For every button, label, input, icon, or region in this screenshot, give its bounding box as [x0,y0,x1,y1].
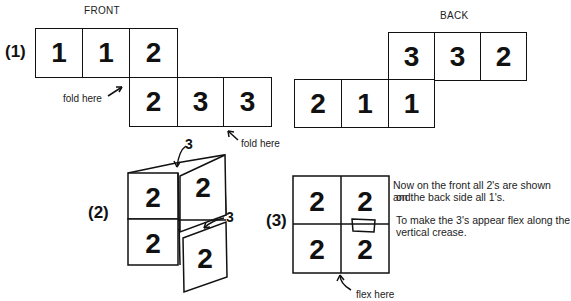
step-2-cell: 2 [195,172,211,203]
step-2-cell: 2 [145,228,161,259]
step-2-cell: 2 [145,182,161,213]
fold-diagram-drawing: 2 2 2 2 2 2 2 2 [0,0,571,301]
step-3-cell: 2 [357,234,373,265]
step-2-cell: 2 [197,243,213,274]
step-3-cell: 2 [357,186,373,217]
step-3-cell: 2 [309,234,325,265]
step-3-cell: 2 [309,186,325,217]
